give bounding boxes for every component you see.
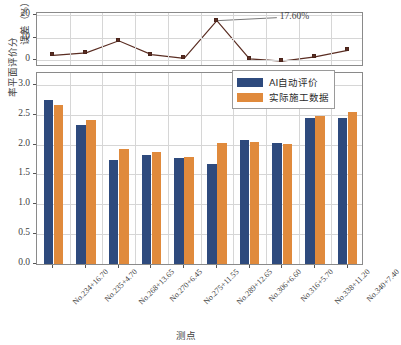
bar-ai (109, 160, 119, 264)
bar-real (54, 105, 64, 264)
gridline-vertical (102, 13, 103, 65)
y-tick-mark (33, 59, 36, 60)
gridline-vertical (331, 13, 332, 65)
y-tick-label: 2.5 (4, 109, 30, 119)
x-tick-mark (183, 265, 184, 268)
y-tick-mark (33, 84, 36, 85)
bar-ai (207, 164, 217, 264)
gridline-horizontal (37, 38, 362, 39)
gridline-vertical (168, 13, 169, 65)
legend-label-ai: AI自动评价 (269, 75, 318, 89)
bar-ai (174, 158, 184, 264)
bar-real (184, 157, 194, 264)
bar-real (217, 143, 227, 264)
x-tick-mark (150, 265, 151, 268)
bar-ai (272, 143, 282, 264)
line-data-marker (181, 55, 185, 59)
y-tick-label: 1.5 (4, 168, 30, 178)
gridline-vertical (135, 13, 136, 65)
gridline-vertical (168, 73, 169, 264)
bar-real (152, 152, 162, 264)
bar-ai (44, 100, 54, 264)
line-data-marker (312, 54, 316, 58)
x-tick-label: No.289+12.65 (235, 268, 273, 306)
annotation-leader-line (217, 18, 277, 21)
top-chart-plot-area (36, 12, 363, 66)
x-tick-mark (52, 265, 53, 268)
x-axis-title: 测点 (0, 328, 372, 342)
chart-legend: AI自动评价 实际施工数据 (232, 70, 335, 109)
gridline-vertical (102, 73, 103, 264)
gridline-vertical (70, 13, 71, 65)
y-tick-mark (33, 14, 36, 15)
y-tick-mark (33, 203, 36, 204)
bar-ai (338, 118, 348, 264)
x-tick-label: No.268+13.65 (137, 268, 175, 306)
bar-real (86, 120, 96, 264)
bar-real (315, 116, 325, 264)
legend-item-ai[interactable]: AI自动评价 (237, 75, 329, 89)
y-tick-mark (33, 173, 36, 174)
x-tick-mark (216, 265, 217, 268)
y-tick-mark (33, 37, 36, 38)
bar-ai (76, 125, 86, 264)
y-tick-mark (33, 144, 36, 145)
legend-swatch-real (237, 93, 263, 102)
x-tick-mark (281, 265, 282, 268)
gridline-horizontal (37, 60, 362, 61)
line-data-marker (148, 52, 152, 56)
line-data-marker (345, 47, 349, 51)
bar-real (250, 142, 260, 264)
legend-item-real[interactable]: 实际施工数据 (237, 90, 329, 104)
line-data-marker (50, 52, 54, 56)
x-tick-mark (314, 265, 315, 268)
x-tick-mark (85, 265, 86, 268)
gridline-vertical (70, 73, 71, 264)
gridline-vertical (135, 73, 136, 264)
gridline-vertical (201, 13, 202, 65)
line-data-marker (83, 50, 87, 54)
y-tick-mark (33, 233, 36, 234)
gridline-vertical (299, 13, 300, 65)
bar-ai (305, 118, 315, 264)
gridline-vertical (201, 73, 202, 264)
x-tick-label: No.234+16.70 (72, 268, 110, 306)
line-data-marker (279, 58, 283, 62)
x-tick-label: No.338+11.20 (333, 268, 371, 306)
y-tick-label: 0.5 (4, 228, 30, 238)
gridline-horizontal (37, 115, 362, 116)
x-tick-mark (249, 265, 250, 268)
y-tick-label: 2.0 (4, 139, 30, 149)
y-tick-label: 0.0 (4, 258, 30, 268)
y-tick-mark (33, 263, 36, 264)
legend-swatch-ai (237, 78, 263, 87)
bar-ai (240, 140, 250, 264)
bar-real (283, 144, 293, 264)
y-tick-label: 1.0 (4, 198, 30, 208)
line-data-marker (214, 18, 218, 22)
bar-real (119, 149, 129, 264)
line-data-marker (116, 38, 120, 42)
x-tick-mark (347, 265, 348, 268)
bar-real (348, 112, 358, 264)
gridline-horizontal (37, 15, 362, 16)
gridline-vertical (266, 13, 267, 65)
x-tick-mark (118, 265, 119, 268)
gridline-vertical (233, 13, 234, 65)
bar-ai (142, 155, 152, 264)
legend-label-real: 实际施工数据 (269, 90, 329, 104)
peak-value-annotation: 17.60% (280, 11, 309, 21)
line-data-marker (247, 56, 251, 60)
x-tick-label: No.316+5.70 (300, 268, 336, 304)
y-tick-mark (33, 114, 36, 115)
y-tick-label: 3.0 (4, 79, 30, 89)
